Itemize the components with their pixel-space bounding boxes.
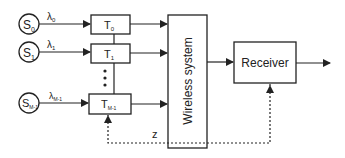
rate-lambda1: λ1 (47, 39, 56, 51)
svg-text:SM-1: SM-1 (22, 97, 38, 110)
rate-lambda-m1: λM-1 (49, 91, 62, 102)
svg-text:λM-1: λM-1 (49, 91, 62, 102)
transmitter-tm1: TM-1 (89, 94, 131, 114)
source-s1: S1 (19, 42, 39, 62)
source-sm1: SM-1 (19, 93, 39, 113)
svg-text:Wireless system: Wireless system (181, 37, 195, 124)
svg-text:S0: S0 (23, 18, 35, 33)
svg-text:S1: S1 (23, 46, 35, 61)
system-diagram: S0 λ0 S1 λ1 SM-1 λM-1 T0 T1 (0, 0, 345, 158)
svg-text:λ1: λ1 (47, 39, 56, 51)
feedback-label-z: z (152, 128, 158, 140)
ellipsis-dots (103, 69, 106, 86)
source-s0: S0 (19, 14, 39, 34)
svg-text:Receiver: Receiver (241, 56, 288, 70)
svg-text:λ0: λ0 (47, 11, 56, 23)
transmitter-t0: T0 (91, 15, 130, 34)
transmitter-t1: T1 (91, 44, 130, 63)
wireless-system-block: Wireless system (168, 15, 207, 148)
rate-lambda0: λ0 (47, 11, 56, 23)
receiver-block: Receiver (234, 42, 296, 83)
